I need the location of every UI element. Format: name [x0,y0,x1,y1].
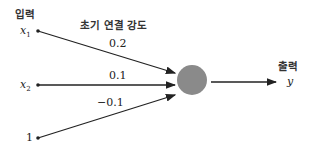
weight-x2: 0.1 [109,70,127,81]
weights-title: 초기 연결 강도 [80,20,147,31]
weight-x1: 0.2 [109,38,127,49]
edge-x1 [38,31,175,73]
neuron [177,65,207,95]
input-title: 입력 [15,9,35,20]
output-title: 출력 [278,61,298,72]
input-label-bias: 1 [26,132,33,143]
weight-bias: −0.1 [97,97,124,108]
input-label-x1: x1 [20,25,31,39]
input-label-x2: x2 [20,79,31,93]
output-label-y: y [287,76,293,87]
perceptron-diagram [0,0,317,155]
